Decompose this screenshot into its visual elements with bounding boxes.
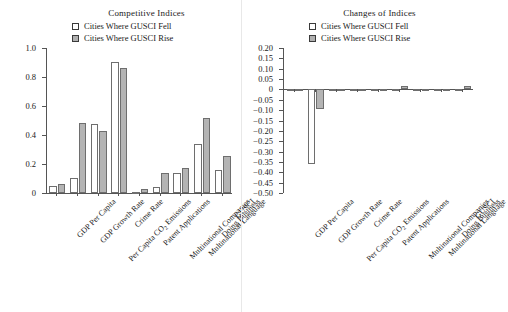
y-tick-label-right: −0.50 — [253, 188, 273, 198]
x-tick-left — [160, 193, 161, 196]
bar-left — [120, 68, 128, 193]
x-tick-left — [118, 193, 119, 196]
y-tick-right: −0.20 — [279, 131, 283, 132]
y-tick-label-right: 0.05 — [258, 74, 273, 84]
y-tick-right: −0.40 — [279, 172, 283, 173]
bar-series-right — [284, 48, 473, 193]
bar-right — [308, 89, 316, 164]
x-tick-left — [77, 193, 78, 196]
legend-label-fell: Cities Where GUSCI Fell — [84, 21, 171, 33]
y-tick-right: 0.20 — [279, 48, 283, 49]
legend-swatch-fell-icon — [309, 23, 316, 30]
legend-swatch-fell-icon — [72, 23, 79, 30]
y-tick-label-right: −0.15 — [253, 116, 273, 126]
y-tick-right: −0.25 — [279, 141, 283, 142]
y-tick-label-right: −0.35 — [253, 157, 273, 167]
bar-series-left — [47, 48, 232, 193]
y-tick-right: 0 — [279, 89, 283, 90]
bar-left — [223, 156, 231, 193]
chart-title-left: Competitive Indices — [0, 8, 267, 18]
x-tick-label-right: Doing Business — [460, 197, 502, 239]
bar-left — [49, 186, 57, 193]
x-tick-right — [294, 89, 295, 92]
x-tick-left — [222, 193, 223, 196]
bar-left — [215, 170, 223, 193]
x-tick-label-right: Multinational Language — [447, 197, 508, 258]
y-tick-label-right: −0.30 — [253, 147, 273, 157]
x-tick-left — [180, 193, 181, 196]
plot-area-left: 00.20.40.60.81.0 — [46, 48, 232, 193]
x-tick-label-right: Patent Applications — [400, 197, 451, 248]
bar-right — [380, 89, 388, 91]
x-tick-label-right: Per Capita CO2 Emissions — [365, 197, 431, 263]
x-tick-label-right: Multinational Companies — [427, 197, 491, 261]
bar-left — [58, 184, 66, 193]
x-tick-right — [399, 89, 400, 92]
x-tick-left — [139, 193, 140, 196]
x-tick-left — [98, 193, 99, 196]
y-tick-label-left: 0.4 — [25, 130, 36, 140]
x-tick-label-right: GDP Per Capita — [313, 197, 356, 240]
chart-title-right: Changes of Indices — [241, 8, 500, 18]
legend-label-fell: Cities Where GUSCI Fell — [321, 21, 408, 33]
x-tick-label-left: Patent Applications — [161, 197, 212, 248]
y-tick-label-left: 0.2 — [25, 159, 36, 169]
bar-right — [337, 89, 345, 91]
chart-panel-competitive-indices: Competitive Indices Cities Where GUSCI F… — [0, 0, 241, 312]
y-tick-left: 0 — [42, 193, 46, 194]
legend-swatch-rise-icon — [72, 35, 79, 42]
bar-left — [182, 168, 190, 193]
bar-right — [358, 89, 366, 91]
y-tick-left: 0.8 — [42, 77, 46, 78]
y-tick-label-right: −0.20 — [253, 126, 273, 136]
y-tick-left: 0.4 — [42, 135, 46, 136]
y-tick-right: −0.50 — [279, 193, 283, 194]
legend-item-fell: Cities Where GUSCI Fell — [72, 21, 173, 33]
x-tick-label-left: Crime Rate — [133, 197, 165, 229]
y-tick-label-left: 1.0 — [25, 43, 36, 53]
y-tick-label-left: 0.6 — [25, 101, 36, 111]
x-tick-right — [357, 89, 358, 92]
y-tick-label-right: −0.45 — [253, 178, 273, 188]
y-tick-label-right: 0 — [269, 84, 273, 94]
bar-left — [203, 118, 211, 193]
y-tick-right: 0.05 — [279, 79, 283, 80]
x-tick-label-left: GDP Growth Rate — [98, 197, 146, 245]
y-tick-label-right: 0.10 — [258, 64, 273, 74]
y-tick-right: −0.05 — [279, 100, 283, 101]
bar-left — [141, 189, 149, 193]
y-tick-label-right: −0.10 — [253, 105, 273, 115]
chart-panel-changes-of-indices: Changes of Indices Cities Where GUSCI Fe… — [241, 0, 482, 312]
x-tick-right — [441, 89, 442, 92]
x-tick-right — [378, 89, 379, 92]
legend-swatch-rise-icon — [309, 35, 316, 42]
x-tick-label-right: Crime Rate — [372, 197, 404, 229]
y-tick-right: −0.30 — [279, 152, 283, 153]
bar-right — [422, 89, 430, 91]
y-tick-right: −0.15 — [279, 121, 283, 122]
bar-right — [316, 89, 324, 109]
legend-left: Cities Where GUSCI Fell Cities Where GUS… — [72, 21, 173, 44]
bar-left — [70, 178, 78, 193]
y-tick-right: −0.45 — [279, 183, 283, 184]
x-tick-left — [56, 193, 57, 196]
y-tick-left: 1.0 — [42, 48, 46, 49]
x-tick-label-left: GDP Per Capita — [75, 197, 118, 240]
x-tick-right — [336, 89, 337, 92]
x-tick-left — [201, 193, 202, 196]
x-tick-right — [420, 89, 421, 92]
bar-right — [295, 89, 303, 91]
y-tick-left: 0.2 — [42, 164, 46, 165]
legend-label-rise: Cities Where GUSCI Rise — [84, 33, 173, 45]
y-tick-right: 0.15 — [279, 58, 283, 59]
bar-right — [401, 86, 409, 90]
y-tick-label-right: 0.15 — [258, 53, 273, 63]
y-tick-label-left: 0 — [32, 188, 36, 198]
x-tick-label-right: GDP Growth Rate — [336, 197, 384, 245]
x-tick-label-right: GUSCI — [473, 197, 496, 220]
y-tick-label-right: −0.40 — [253, 167, 273, 177]
y-tick-right: −0.35 — [279, 162, 283, 163]
legend-item-fell: Cities Where GUSCI Fell — [309, 21, 410, 33]
legend-right: Cities Where GUSCI Fell Cities Where GUS… — [309, 21, 410, 44]
x-tick-label-left: Per Capita CO2 Emissions — [126, 197, 192, 263]
